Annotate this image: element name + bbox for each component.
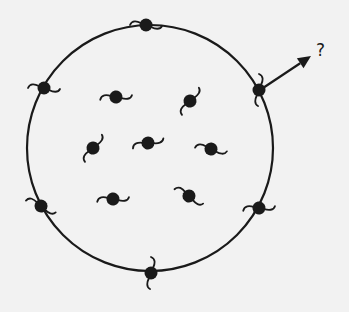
- escape-arrow: [263, 56, 311, 88]
- particle-body: [145, 267, 158, 280]
- particle-body: [140, 19, 153, 32]
- interior-particle: [194, 141, 227, 157]
- particle-body: [84, 139, 102, 157]
- interior-particle: [79, 131, 106, 165]
- arrow-shaft: [263, 63, 300, 88]
- interior-particle: [172, 183, 206, 208]
- boundary-particle: [145, 257, 158, 289]
- particle-body: [38, 82, 51, 95]
- interior-particles: [79, 84, 227, 209]
- diagram-canvas: [0, 0, 349, 312]
- boundary-particle: [242, 199, 276, 217]
- particle-body: [253, 84, 266, 97]
- particle-body: [105, 191, 120, 206]
- interior-particle: [99, 88, 133, 106]
- boundary-particle: [28, 82, 60, 95]
- boundary-particle: [24, 194, 59, 217]
- particle-body: [140, 135, 157, 152]
- particle-body: [108, 89, 123, 104]
- particle-body: [204, 142, 218, 156]
- boundary-particles: [24, 19, 276, 290]
- question-mark-label: ?: [316, 40, 325, 60]
- interior-particle: [131, 131, 166, 154]
- interior-particle: [96, 190, 130, 208]
- interior-particle: [176, 84, 203, 118]
- arrow-head-icon: [297, 56, 311, 68]
- particle-body: [181, 92, 199, 110]
